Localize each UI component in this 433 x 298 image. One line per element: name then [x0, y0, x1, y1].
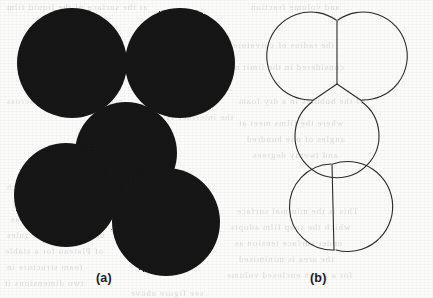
filled-bubble-top-left — [17, 8, 127, 118]
filled-bubble-bottom-right — [112, 168, 220, 276]
outline-triple-cluster — [267, 12, 408, 178]
plateau-border-right — [337, 84, 362, 101]
outline-bubble-bottom-right — [333, 162, 393, 252]
panel-b-outline-bubbles — [274, 6, 426, 286]
caption-a: (a) — [96, 271, 112, 285]
panel-a-filled-bubbles — [8, 6, 216, 286]
filled-bubble-cluster-svg — [8, 6, 216, 286]
ghost-text-line: see figure above — [130, 288, 203, 298]
caption-b: (b) — [310, 271, 327, 285]
filled-bubble-top-right — [125, 8, 235, 118]
outline-bubble-lower-middle — [295, 102, 379, 178]
outline-bubble-top-right — [338, 12, 407, 100]
outline-bubble-top-left — [267, 12, 336, 100]
plateau-border-left — [312, 84, 337, 101]
outline-bubble-cluster-svg — [274, 6, 426, 286]
filled-bubble-bottom-left — [14, 143, 118, 247]
plateau-border-shared-film — [332, 164, 334, 250]
figure-page: at the surface of the liquid filmand vol… — [0, 0, 433, 298]
outline-double-cluster — [289, 162, 392, 252]
